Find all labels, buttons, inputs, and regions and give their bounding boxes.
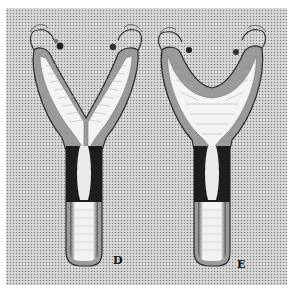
label-d: D: [113, 254, 123, 267]
label-e: E: [237, 258, 245, 271]
figure-svg: D E: [0, 0, 291, 293]
illustration: D E: [0, 0, 291, 293]
stipple-background: [6, 8, 287, 285]
